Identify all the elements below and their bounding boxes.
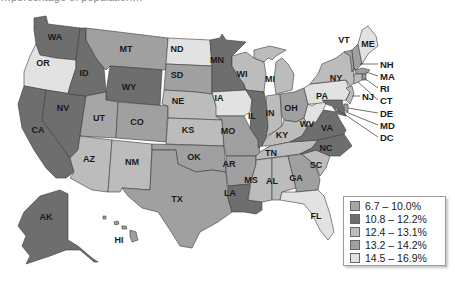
label-AR: AR <box>223 159 236 169</box>
label-WA: WA <box>48 32 63 42</box>
label-CO: CO <box>130 117 144 127</box>
callout-DC: DC <box>380 132 394 143</box>
legend-item: 6.7 – 10.0% <box>350 200 445 213</box>
legend-item: 14.5 – 16.9% <box>350 251 445 264</box>
label-IN: IN <box>266 108 275 118</box>
legend-swatch <box>350 201 360 211</box>
label-KS: KS <box>182 125 195 135</box>
legend-swatch <box>350 240 360 250</box>
state-DC[interactable] <box>335 108 338 111</box>
callout-MD: MD <box>380 120 395 131</box>
state-FL[interactable] <box>280 190 334 240</box>
label-AK: AK <box>40 212 53 222</box>
label-NE: NE <box>172 96 185 106</box>
label-KY: KY <box>276 130 289 140</box>
label-MN: MN <box>210 55 224 65</box>
callout-RI: RI <box>380 83 390 94</box>
state-AK[interactable] <box>18 190 98 264</box>
label-WI: WI <box>237 69 248 79</box>
legend-item: 10.8 – 12.2% <box>350 213 445 226</box>
label-MI: MI <box>265 74 275 84</box>
callout-NH: NH <box>380 59 394 70</box>
label-NC: NC <box>320 143 333 153</box>
legend-swatch <box>350 214 360 224</box>
legend-label: 6.7 – 10.0% <box>365 200 421 212</box>
label-AL: AL <box>266 176 278 186</box>
callout-MA: MA <box>380 71 395 82</box>
callout-DE: DE <box>380 108 393 119</box>
label-IA: IA <box>215 93 225 103</box>
label-MS: MS <box>244 175 258 185</box>
label-OR: OR <box>36 58 50 68</box>
label-MO: MO <box>221 126 236 136</box>
state-KS[interactable] <box>166 118 224 146</box>
label-PA: PA <box>316 91 328 101</box>
label-GA: GA <box>289 173 303 183</box>
label-VA: VA <box>321 123 333 133</box>
label-IL: IL <box>248 111 257 121</box>
callout-CT: CT <box>380 95 393 106</box>
label-ID: ID <box>80 68 90 78</box>
label-ND: ND <box>171 44 184 54</box>
label-ME: ME <box>361 39 375 49</box>
label-NV: NV <box>57 103 70 113</box>
legend-item: 12.4 – 13.1% <box>350 226 445 239</box>
label-OK: OK <box>187 152 201 162</box>
label-SC: SC <box>310 160 323 170</box>
label-HI: HI <box>115 235 124 245</box>
legend-label: 14.5 – 16.9% <box>365 252 427 264</box>
label-NY: NY <box>330 73 343 83</box>
label-WV: WV <box>300 119 315 129</box>
legend-swatch <box>350 227 360 237</box>
callout-NJ: NJ <box>362 91 374 102</box>
legend-label: 13.2 – 14.2% <box>365 239 427 251</box>
legend-item: 13.2 – 14.2% <box>350 238 445 251</box>
label-TN: TN <box>265 148 277 158</box>
label-FL: FL <box>311 211 322 221</box>
label-SD: SD <box>171 70 184 80</box>
legend-label: 12.4 – 13.1% <box>365 226 427 238</box>
state-CT[interactable] <box>354 74 362 84</box>
label-LA: LA <box>224 188 236 198</box>
label-NM: NM <box>125 157 139 167</box>
state-DE[interactable] <box>344 104 348 112</box>
map-legend: 6.7 – 10.0% 10.8 – 12.2% 12.4 – 13.1% 13… <box>343 196 446 266</box>
label-CA: CA <box>32 125 45 135</box>
label-AZ: AZ <box>83 154 95 164</box>
label-WY: WY <box>122 82 137 92</box>
legend-label: 10.8 – 12.2% <box>365 213 427 225</box>
label-MT: MT <box>120 44 133 54</box>
label-OH: OH <box>284 103 298 113</box>
legend-swatch <box>350 253 360 263</box>
label-TX: TX <box>171 194 183 204</box>
label-VT: VT <box>338 35 350 45</box>
label-UT: UT <box>93 113 105 123</box>
